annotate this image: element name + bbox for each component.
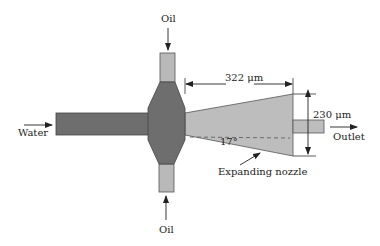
oil-bottom-label: Oil [159, 224, 174, 235]
width-dim-label: 230 μm [313, 109, 352, 120]
oil-inlet-top-channel [160, 53, 175, 82]
outlet-label: Outlet [333, 131, 365, 142]
nozzle-pointer-arrow [240, 153, 260, 165]
oil-top-label: Oil [161, 13, 176, 24]
junction-hub [148, 82, 185, 164]
expanding-nozzle [185, 94, 293, 156]
diagram-canvas: 17° Oil Oil Water 322 μm 230 μm Outlet E… [0, 0, 380, 246]
nozzle-label: Expanding nozzle [218, 166, 308, 177]
angle-label: 17° [220, 136, 238, 147]
oil-inlet-bottom-channel [159, 164, 174, 192]
length-dim-label: 322 μm [225, 72, 264, 83]
outlet-channel [293, 120, 324, 133]
water-label: Water [18, 127, 48, 138]
water-inlet-channel [56, 113, 151, 135]
